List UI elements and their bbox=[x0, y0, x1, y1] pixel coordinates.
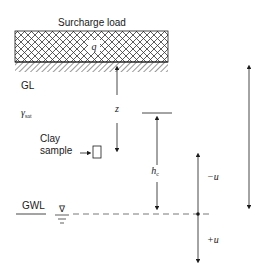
water-table-symbol: ∇ bbox=[58, 204, 66, 214]
surcharge-title: Surcharge load bbox=[58, 17, 126, 28]
unit-weight-label: γsat bbox=[21, 107, 32, 119]
ground-hatch bbox=[15, 62, 168, 72]
ground-level-label: GL bbox=[21, 80, 35, 91]
soil-profile-diagram: Surcharge load q GL γsat Clay sample z h… bbox=[0, 0, 268, 279]
negative-pore-label: −u bbox=[207, 171, 219, 182]
clay-label-line1: Clay bbox=[40, 133, 60, 144]
clay-sample-box bbox=[93, 146, 101, 158]
depth-z-label: z bbox=[114, 103, 119, 114]
water-table-label: GWL bbox=[22, 200, 45, 211]
surcharge-q-label: q bbox=[92, 41, 97, 52]
positive-pore-label: +u bbox=[207, 234, 219, 245]
clay-label-line2: sample bbox=[40, 145, 73, 156]
capillary-hc-label: hc bbox=[151, 165, 159, 177]
